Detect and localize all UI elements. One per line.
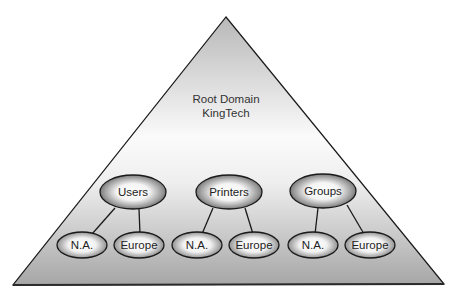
ou-groups-label: Groups (304, 185, 342, 197)
ou-users-europe[interactable]: Europe (114, 232, 164, 258)
triangle-base (13, 284, 444, 285)
domain-tree-diagram: Root Domain KingTech Users N.A. Europe (0, 0, 456, 299)
ou-groups-europe[interactable]: Europe (345, 232, 395, 258)
ou-printers[interactable]: Printers (196, 175, 262, 209)
ou-printers-europe[interactable]: Europe (229, 232, 279, 258)
ou-users-na[interactable]: N.A. (57, 232, 107, 258)
ou-groups-na[interactable]: N.A. (288, 232, 338, 258)
root-domain-label: Root Domain (192, 93, 259, 105)
ou-users-europe-label: Europe (120, 239, 157, 251)
ou-printers-na-label: N.A. (186, 239, 208, 251)
ou-users-na-label: N.A. (71, 239, 93, 251)
ou-users[interactable]: Users (100, 175, 166, 209)
ou-printers-europe-label: Europe (235, 239, 272, 251)
ou-printers-na[interactable]: N.A. (172, 232, 222, 258)
ou-groups-europe-label: Europe (351, 239, 388, 251)
root-domain-name: KingTech (202, 107, 249, 119)
ou-users-label: Users (118, 186, 148, 198)
ou-groups[interactable]: Groups (290, 174, 356, 208)
ou-groups-na-label: N.A. (302, 239, 324, 251)
ou-printers-label: Printers (209, 186, 249, 198)
